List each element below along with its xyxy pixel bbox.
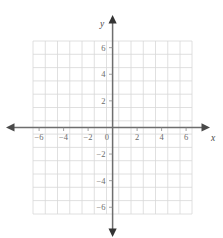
x-axis-arrow-left xyxy=(6,123,15,131)
y-axis-name-label: y xyxy=(99,19,105,29)
y-tick-label: −6 xyxy=(96,202,105,212)
x-tick-label: −4 xyxy=(59,132,69,142)
y-tick-label: 6 xyxy=(101,43,105,53)
x-tick-label: 2 xyxy=(135,132,139,142)
y-tick-label: −4 xyxy=(96,176,106,186)
x-tick-label: −6 xyxy=(35,132,44,142)
y-tick-label: 2 xyxy=(101,96,105,106)
y-axis-arrow-up xyxy=(109,15,117,24)
origin-label: 0 xyxy=(105,132,109,142)
x-tick-label: 6 xyxy=(184,132,188,142)
x-tick-label: −2 xyxy=(84,132,93,142)
coordinate-plane-figure: −6 −4 −2 2 4 6 6 4 2 −2 −4 −6 0 y x xyxy=(0,0,223,238)
coordinate-grid-svg: −6 −4 −2 2 4 6 6 4 2 −2 −4 −6 0 y x xyxy=(0,0,223,238)
y-axis-arrow-down xyxy=(109,229,117,238)
x-axis-arrow-right xyxy=(202,123,211,131)
y-tick-label: −2 xyxy=(96,149,105,159)
x-tick-label: 4 xyxy=(159,132,164,142)
x-axis-name-label: x xyxy=(210,133,216,143)
y-tick-label: 4 xyxy=(101,69,106,79)
x-axis xyxy=(6,123,210,131)
y-axis xyxy=(109,15,117,237)
